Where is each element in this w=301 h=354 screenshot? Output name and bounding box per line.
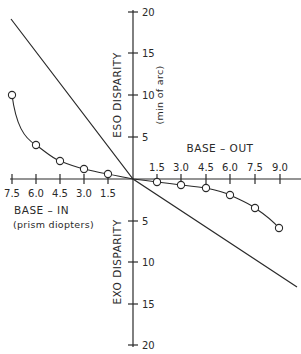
svg-text:4.5: 4.5: [52, 188, 68, 199]
svg-text:1.5: 1.5: [100, 188, 116, 199]
svg-text:6.0: 6.0: [28, 188, 44, 199]
exo-disparity-label: EXO DISPARITY: [111, 219, 123, 304]
data-point: [32, 141, 39, 148]
base-in-label: BASE – IN: [14, 204, 69, 216]
svg-text:7.5: 7.5: [247, 162, 263, 173]
data-point: [104, 170, 111, 177]
svg-text:10: 10: [142, 90, 155, 101]
svg-text:15: 15: [142, 48, 155, 59]
data-point: [80, 165, 87, 172]
svg-text:3.0: 3.0: [173, 162, 189, 173]
x-tick-labels-right: 1.5 3.0 4.5 6.0 7.5 9.0: [149, 162, 288, 173]
svg-text:6.0: 6.0: [222, 162, 238, 173]
svg-text:9.0: 9.0: [272, 162, 288, 173]
data-point: [56, 157, 63, 164]
data-point: [177, 181, 184, 188]
svg-text:20: 20: [142, 340, 155, 351]
svg-text:3.0: 3.0: [76, 188, 92, 199]
svg-text:4.5: 4.5: [198, 162, 214, 173]
data-point: [275, 224, 282, 231]
reference-line: [11, 19, 297, 287]
svg-text:1.5: 1.5: [149, 162, 165, 173]
base-in-units-label: (prism diopters): [13, 219, 94, 230]
base-out-label: BASE – OUT: [187, 142, 254, 154]
data-point: [202, 184, 209, 191]
data-point: [251, 204, 258, 211]
svg-text:10: 10: [142, 257, 155, 268]
eso-disparity-label: ESO DISPARITY: [111, 52, 123, 137]
svg-text:7.5: 7.5: [4, 188, 20, 199]
svg-text:15: 15: [142, 299, 155, 310]
data-point: [226, 191, 233, 198]
data-point: [8, 91, 15, 98]
svg-text:5: 5: [142, 216, 148, 227]
svg-text:20: 20: [142, 7, 155, 18]
svg-text:5: 5: [142, 132, 148, 143]
data-point: [153, 178, 160, 185]
x-tick-labels-left: 7.5 6.0 4.5 3.0 1.5: [4, 188, 116, 199]
fixation-disparity-chart: 7.5 6.0 4.5 3.0 1.5 1.5 3.0 4.5 6.0 7.5 …: [0, 0, 301, 354]
eso-units-label: (min of arc): [154, 66, 165, 125]
